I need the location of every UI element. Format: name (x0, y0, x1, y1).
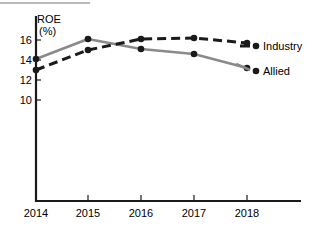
legend-label-allied: Allied (263, 66, 290, 77)
x-tick-label-2014: 2014 (16, 208, 56, 219)
y-tick-label-14: 14 (12, 55, 32, 66)
chart-page: ROE (%) 16 14 12 10 2014 2015 2016 2017 … (0, 0, 311, 234)
x-tick-label-2018: 2018 (227, 208, 267, 219)
x-tick-label-2017: 2017 (174, 208, 214, 219)
y-tick-label-10: 10 (12, 95, 32, 106)
x-tick-label-2016: 2016 (121, 208, 161, 219)
x-tick-label-2015: 2015 (68, 208, 108, 219)
legend-label-industry: Industry (263, 41, 302, 52)
y-axis-title-line2: (%) (39, 25, 56, 37)
y-tick-label-12: 12 (12, 75, 32, 86)
series-line-allied (36, 39, 247, 68)
y-axis-title-line1: ROE (37, 13, 61, 25)
y-tick-label-16: 16 (12, 35, 32, 46)
series-line-industry (36, 38, 247, 70)
